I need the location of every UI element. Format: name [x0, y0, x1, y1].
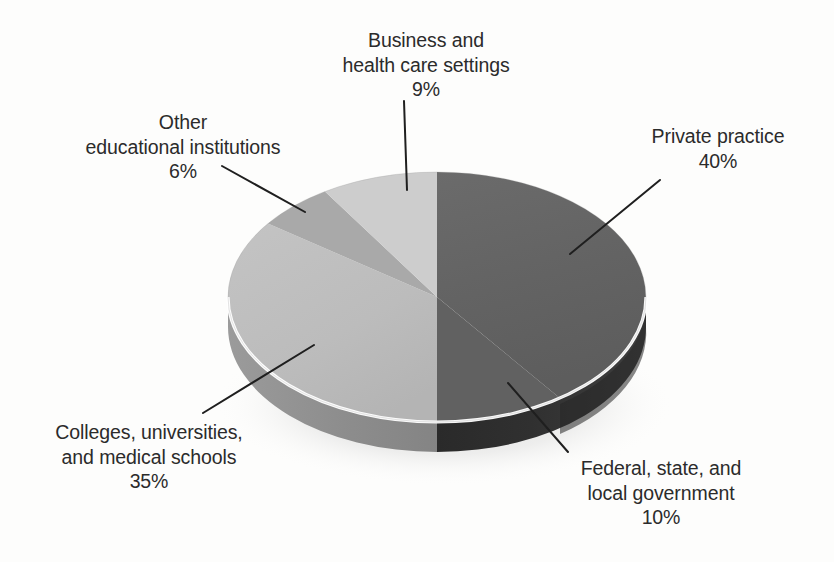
label-value: 9% [318, 77, 534, 102]
label-value: 35% [18, 469, 280, 494]
label-value: 6% [48, 159, 318, 184]
label-line: and medical schools [18, 445, 280, 470]
label-line: local government [540, 481, 782, 506]
label-line: Federal, state, and [540, 456, 782, 481]
pie-chart-figure: Business and health care settings 9% Oth… [0, 0, 834, 562]
label-private-practice: Private practice 40% [620, 124, 816, 173]
label-other-educational-institutions: Other educational institutions 6% [48, 110, 318, 184]
label-federal-state-local-government: Federal, state, and local government 10% [540, 456, 782, 530]
label-value: 40% [620, 149, 816, 174]
label-colleges-universities-medical-schools: Colleges, universities, and medical scho… [18, 420, 280, 494]
label-line: health care settings [318, 53, 534, 78]
label-line: Business and [318, 28, 534, 53]
label-value: 10% [540, 505, 782, 530]
label-business-and-health-care-settings: Business and health care settings 9% [318, 28, 534, 102]
label-line: Colleges, universities, [18, 420, 280, 445]
label-line: educational institutions [48, 135, 318, 160]
label-line: Private practice [620, 124, 816, 149]
label-line: Other [48, 110, 318, 135]
